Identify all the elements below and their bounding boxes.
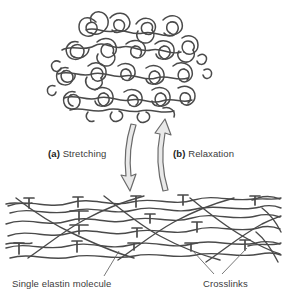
label-stretching-text: Stretching (60, 148, 107, 159)
coil-chain-6 (97, 39, 116, 67)
coil-chain-11 (86, 63, 106, 90)
label-relaxation-prefix: (b) (173, 148, 185, 159)
coil-chain-5 (66, 42, 89, 60)
elastin-figure: (a) Stretching (b) Relaxation Single ela… (0, 0, 283, 303)
coil-chain-12 (118, 64, 135, 81)
coil-chain-17 (124, 90, 142, 107)
coil-chain-1 (79, 12, 108, 36)
elastin-strand (256, 232, 278, 262)
coiled-elastin-network (47, 12, 211, 123)
coil-chain-3 (136, 18, 155, 43)
elastin-strand (10, 205, 281, 213)
label-stretching: (a) Stretching (48, 148, 106, 159)
stretched-elastin-network (6, 195, 281, 262)
crosslink (132, 228, 142, 237)
coil-chain-13 (146, 66, 164, 85)
crosslink (178, 195, 188, 205)
elastin-strand (8, 196, 280, 206)
coil-chain-15 (64, 92, 80, 109)
label-relaxation-text: Relaxation (185, 148, 234, 159)
elastin-strand (16, 198, 134, 258)
elastin-diagram-svg (0, 0, 283, 303)
leader-lines (104, 248, 247, 276)
leader-line-single-elastin (104, 251, 119, 276)
coil-chain-19 (178, 86, 195, 105)
label-single-elastin-molecule: Single elastin molecule (12, 278, 111, 289)
crosslink (72, 241, 82, 252)
leader-line-crosslink-right (222, 248, 247, 274)
curved-arrow-down-icon (121, 124, 136, 191)
crosslink (185, 243, 197, 251)
coil-chain-18 (152, 88, 170, 107)
curved-arrow-up-icon (155, 119, 171, 191)
coil-chain-9 (178, 36, 198, 62)
label-stretching-prefix: (a) (48, 148, 60, 159)
crosslink (14, 243, 24, 254)
label-crosslinks: Crosslinks (203, 278, 248, 289)
elastin-strand (10, 253, 281, 259)
coil-chain-2 (110, 13, 130, 32)
coil-chain-4 (163, 16, 182, 36)
label-relaxation: (b) Relaxation (173, 148, 234, 159)
crosslink (240, 240, 250, 250)
